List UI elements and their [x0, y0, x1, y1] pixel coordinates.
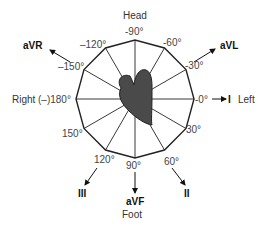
right-label: Right — [12, 95, 35, 105]
lead-label-avr: aVR — [23, 41, 42, 51]
angle-label-m150: –150° — [58, 62, 84, 72]
lead-label-i: I — [228, 95, 231, 105]
angle-label-m60: -60° — [163, 38, 181, 48]
angle-label-180: (–)180° — [38, 95, 71, 105]
lead-label-avl: aVL — [220, 41, 238, 51]
lead-label-iii: III — [78, 189, 86, 199]
head-label: Head — [123, 11, 147, 21]
lead-label-avf: aVF — [126, 197, 144, 207]
lead-label-ii: II — [184, 189, 190, 199]
angle-label-m30: -30° — [185, 61, 203, 71]
angle-label-m90: -90° — [125, 27, 143, 37]
angle-label-150: 150° — [62, 129, 83, 139]
foot-label: Foot — [122, 210, 142, 220]
angle-label-120: 120° — [94, 155, 115, 165]
angle-label-60: 60° — [164, 157, 179, 167]
angle-label-0: -0° — [195, 95, 208, 105]
angle-label-30: 30° — [186, 125, 201, 135]
heart-shape — [119, 70, 152, 125]
angle-label-90: 90° — [126, 161, 141, 171]
angle-label-m120: –120° — [80, 40, 106, 50]
left-label: Left — [238, 95, 255, 105]
